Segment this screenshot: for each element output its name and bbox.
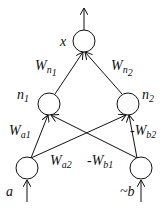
node-n2 [117,93,139,115]
label-n1: n1 [17,88,29,104]
node-n1 [38,93,60,115]
label-wn1: Wn1 [35,59,57,78]
node-x [73,30,95,52]
edge-n1-x [55,52,83,94]
edge-nb-n1 [51,115,137,158]
label-wb2: -Wb2 [130,124,156,140]
node-nb [130,157,152,179]
node-a [16,157,38,179]
label-wa1: Wa1 [9,124,31,140]
diagram-canvas [0,0,168,212]
label-wb1: -Wb1 [87,154,113,170]
label-nb: ~b [120,185,135,199]
label-x: x [60,35,66,49]
label-n2: n2 [142,88,154,104]
label-wa2: Wa2 [50,154,72,170]
label-a: a [6,185,13,199]
label-wn2: Wn2 [111,59,133,78]
neural-network-diagram: x n1 n2 a ~b Wn1 Wn2 Wa1 -Wb2 Wa2 -Wb1 [0,0,168,212]
